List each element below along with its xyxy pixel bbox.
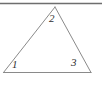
angle-label-2: 2 [49,13,55,24]
figure-container: 1 2 3 [0,0,102,86]
angle-label-1: 1 [12,59,18,70]
angle-label-3: 3 [71,57,77,68]
